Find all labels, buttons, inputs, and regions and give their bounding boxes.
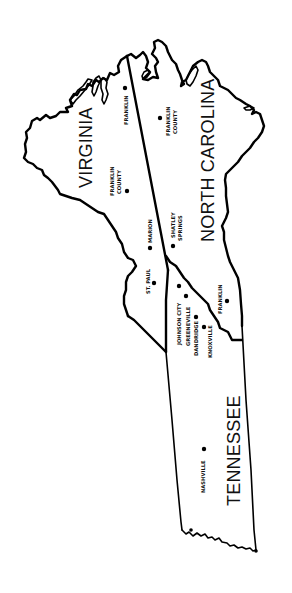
city-dot-franklin-county-nc	[158, 116, 162, 120]
city-label-marion: MARION	[147, 219, 153, 243]
city-label-johnson-city: JOHNSON CITY	[176, 302, 183, 346]
city-dot-franklin-va	[123, 86, 127, 90]
city-dot-nashville	[202, 447, 206, 451]
city-label-dandridge: DANDRIDGE	[193, 321, 199, 356]
city-dot-greeneville	[184, 294, 188, 298]
map-canvas: VIRGINIA NORTH CAROLINA TENNESSEE FRANKL…	[0, 0, 292, 593]
city-label-shatley-springs-line2: SPRINGS	[177, 215, 183, 241]
city-dot-johnson-city	[177, 284, 181, 288]
city-label-franklin-county-va-line1: FRANKLIN	[109, 167, 115, 197]
city-dot-franklin-county-va	[125, 189, 129, 193]
city-dot-franklin-nc	[225, 299, 229, 303]
city-label-franklin-county-nc-line1: FRANKLIN	[165, 107, 171, 137]
city-label-franklin-county-nc-line2: COUNTY	[172, 110, 178, 134]
city-label-nashville: NASHVILLE	[200, 460, 206, 493]
city-label-franklin-county-va-line2: COUNTY	[116, 170, 122, 194]
city-label-franklin-nc: FRANKLIN	[217, 285, 223, 315]
city-dot-knoxville	[202, 325, 206, 329]
state-label-tennessee: TENNESSEE	[224, 395, 244, 506]
tennessee-outline	[166, 326, 258, 553]
state-label-north-carolina: NORTH CAROLINA	[198, 79, 218, 243]
city-label-greeneville: GREENEVILLE	[185, 306, 191, 346]
city-dot-shatley-springs	[171, 244, 175, 248]
city-label-franklin-va: FRANKLIN	[123, 96, 129, 126]
city-label-knoxville: KNOXVILLE	[207, 325, 213, 358]
city-dot-dandridge	[194, 315, 198, 319]
city-label-st-paul: ST. PAUL	[145, 268, 151, 294]
city-dot-st-paul	[152, 281, 156, 285]
city-label-shatley-springs-line1: SHATLEY	[170, 212, 176, 238]
state-label-virginia: VIRGINIA	[76, 107, 96, 188]
city-dot-marion	[148, 246, 152, 250]
